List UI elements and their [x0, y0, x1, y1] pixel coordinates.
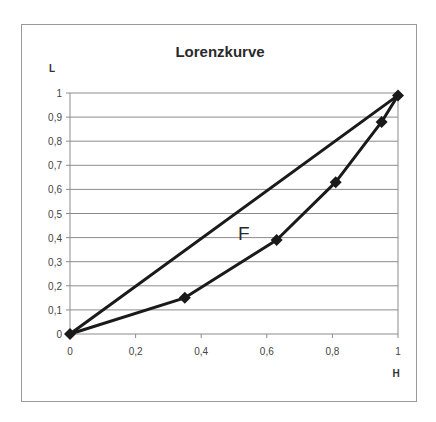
- x-axis-ticks: 00,20,40,60,81: [67, 346, 401, 357]
- data-series: [64, 89, 404, 340]
- x-tick-label: 0: [67, 346, 73, 357]
- x-tick-label: 1: [395, 346, 401, 357]
- y-tick-label: 0,3: [48, 257, 62, 268]
- y-tick-label: 0: [56, 329, 62, 340]
- y-tick-label: 1: [56, 88, 62, 99]
- y-tick-label: 0,9: [48, 112, 62, 123]
- y-tick-label: 0,7: [48, 160, 62, 171]
- x-axis-label: H: [392, 368, 399, 379]
- y-tick-label: 0,4: [48, 233, 62, 244]
- y-axis-label: L: [49, 63, 55, 74]
- lorenz-chart: Lorenzkurve L H 00,10,20,30,40,50,60,70,…: [0, 0, 436, 422]
- y-tick-label: 0,8: [48, 136, 62, 147]
- series-line: [70, 95, 398, 334]
- y-axis-ticks: 00,10,20,30,40,50,60,70,80,91: [48, 88, 62, 340]
- x-tick-label: 0,4: [194, 346, 208, 357]
- x-tick-label: 0,8: [325, 346, 339, 357]
- x-tick-label: 0,6: [260, 346, 274, 357]
- area-label-f: F: [238, 223, 250, 244]
- y-tick-label: 0,1: [48, 305, 62, 316]
- y-tick-label: 0,6: [48, 184, 62, 195]
- y-tick-label: 0,2: [48, 281, 62, 292]
- chart-title: Lorenzkurve: [175, 43, 264, 60]
- y-tick-label: 0,5: [48, 209, 62, 220]
- x-tick-label: 0,2: [129, 346, 143, 357]
